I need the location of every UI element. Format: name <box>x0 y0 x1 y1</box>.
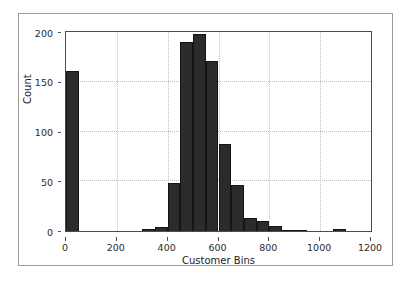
x-tick-label: 800 <box>259 243 277 253</box>
x-tick-mark <box>167 237 168 241</box>
gridline-vertical <box>117 32 118 231</box>
x-tick-mark <box>268 237 269 241</box>
y-tick-mark <box>58 32 62 33</box>
histogram-bar <box>206 61 219 231</box>
histogram-bar <box>244 218 257 231</box>
histogram-bar <box>193 34 206 231</box>
gridline-vertical <box>269 32 270 231</box>
x-tick-label: 400 <box>158 243 176 253</box>
gridline-horizontal <box>66 131 371 132</box>
plot-area <box>65 31 372 232</box>
figure-root: 050100150200 020040060080010001200 Count… <box>0 0 410 283</box>
x-axis-label: Customer Bins <box>65 255 372 266</box>
y-axis-ticks: 050100150200 <box>36 31 61 232</box>
histogram-bar <box>231 185 244 231</box>
y-tick-label: 100 <box>35 128 53 138</box>
histogram-bar <box>155 227 168 231</box>
gridline-vertical <box>320 32 321 231</box>
x-tick-label: 1000 <box>307 243 331 253</box>
x-tick-label: 200 <box>107 243 125 253</box>
x-tick-mark <box>65 237 66 241</box>
y-axis-label: Count <box>22 74 33 104</box>
y-tick-label: 0 <box>47 228 53 238</box>
y-tick-mark <box>58 82 62 83</box>
x-axis-ticks: 020040060080010001200 <box>65 237 372 251</box>
gridline-horizontal <box>66 81 371 82</box>
histogram-bar <box>269 226 282 231</box>
x-tick-label: 0 <box>62 243 68 253</box>
x-tick-label: 1200 <box>358 243 382 253</box>
histogram-bar <box>180 42 193 231</box>
histogram-bar <box>333 229 346 231</box>
x-tick-mark <box>319 237 320 241</box>
x-tick-mark <box>218 237 219 241</box>
y-tick-mark <box>58 231 62 232</box>
histogram-bar <box>257 221 270 231</box>
histogram-bar <box>168 183 181 231</box>
histogram-bar <box>219 144 232 231</box>
y-tick-mark <box>58 181 62 182</box>
gridline-horizontal <box>66 31 371 32</box>
x-tick-label: 600 <box>208 243 226 253</box>
histogram-bar <box>282 230 295 231</box>
y-tick-label: 200 <box>35 29 53 39</box>
x-tick-mark <box>116 237 117 241</box>
histogram-bar <box>142 229 155 231</box>
histogram-bar <box>66 71 79 231</box>
y-tick-label: 150 <box>35 78 53 88</box>
y-tick-label: 50 <box>41 178 53 188</box>
histogram-bar <box>295 230 308 231</box>
y-tick-mark <box>58 132 62 133</box>
x-tick-mark <box>370 237 371 241</box>
